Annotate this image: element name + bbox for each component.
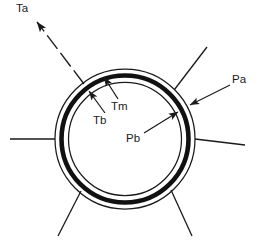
vessel-wall-rings bbox=[55, 69, 195, 209]
leader-tb bbox=[89, 91, 105, 113]
leader-pb bbox=[144, 112, 178, 133]
adventitia-outline-circle bbox=[55, 69, 195, 209]
label-tm: Tm bbox=[111, 101, 128, 113]
vessel-svg-canvas bbox=[0, 0, 258, 244]
label-ta: Ta bbox=[16, 3, 28, 15]
media-band-circle bbox=[62, 76, 189, 203]
spoke-lower-right bbox=[171, 190, 192, 236]
leader-pa bbox=[190, 85, 230, 105]
spoke-upper-right bbox=[175, 47, 208, 90]
vessel-cross-section-diagram: Ta Tm Tb Pa Pb bbox=[0, 0, 258, 244]
leader-ta bbox=[37, 22, 84, 84]
spoke-lower-left bbox=[58, 191, 81, 236]
spoke-right bbox=[195, 139, 245, 145]
label-pa: Pa bbox=[232, 74, 246, 86]
label-tb: Tb bbox=[93, 115, 106, 127]
leader-tm bbox=[104, 77, 118, 99]
label-pb: Pb bbox=[126, 133, 140, 145]
